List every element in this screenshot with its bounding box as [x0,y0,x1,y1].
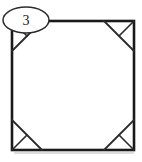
outer-square [12,21,134,150]
geometry-figure: 3 [0,0,142,162]
callout-label: 3 [23,13,30,28]
corner-median-top-right [119,21,134,36]
figure-container: 3 [0,0,142,162]
corner-median-bottom-left [12,135,27,150]
corner-median-bottom-right [119,135,134,150]
